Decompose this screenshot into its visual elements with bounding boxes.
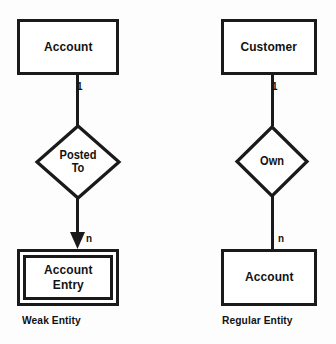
diamond-shape-icon [34,123,122,201]
entity-label-line1: Account [44,262,92,277]
connector-own-to-account [271,196,274,250]
cardinality-label-n-right: n [278,233,284,244]
diamond-shape-icon [234,124,310,199]
entity-label-customer: Customer [241,40,298,55]
arrowhead-down-icon [68,232,87,250]
caption-weak-entity: Weak Entity [22,315,81,326]
relationship-diamond-posted-to[interactable]: Posted To [34,123,122,201]
caption-regular-entity: Regular Entity [222,315,293,326]
entity-label-account-parent: Account [44,40,92,55]
cardinality-label-n-left: n [86,233,92,244]
entity-label-account-entry: Account Entry [44,263,92,292]
relationship-diamond-own[interactable]: Own [234,124,310,199]
entity-box-customer[interactable]: Customer [221,19,317,75]
cardinality-label-one-left: 1 [77,81,83,92]
cardinality-label-one-right: 1 [272,81,278,92]
entity-box-account-entry-weak[interactable]: Account Entry [17,249,119,306]
entity-label-account-regular: Account [245,270,293,285]
entity-box-account-parent[interactable]: Account [17,19,119,75]
entity-box-account-regular[interactable]: Account [221,249,317,306]
er-diagram-canvas: Account 1 Posted To n Account Entry [0,0,336,344]
entity-label-line2: Entry [52,277,83,292]
weak-entity-inner-border: Account Entry [23,255,113,300]
